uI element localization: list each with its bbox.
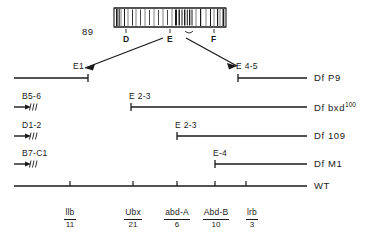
row-df-m1 — [14, 160, 307, 168]
chromosome-idiogram — [114, 8, 226, 33]
gene-llb-name: llb — [64, 208, 75, 220]
left-label-d1-2: D1-2 — [22, 121, 42, 130]
row-wt — [14, 181, 307, 186]
gene-abd-b-name: Abd-B — [203, 208, 230, 220]
deficiency-map-figure: 89 D E F E1 E 4-5 B5-6 E 2-3 D1-2 E 2-3 … — [0, 0, 369, 235]
gene-llb-number: 11 — [48, 220, 92, 229]
chromosome-outline — [114, 8, 226, 27]
gene-lrb: lrb 3 — [231, 201, 273, 229]
row2-left-hatches — [30, 104, 38, 111]
band-brace — [185, 31, 193, 33]
gene-llb-name-wrap: llb — [48, 201, 92, 220]
band-label-e: E — [167, 35, 173, 44]
segment-label-e2-3-row2: E 2-3 — [129, 92, 151, 101]
band-label-f: F — [211, 35, 217, 44]
gene-ubx-name-wrap: Ubx — [111, 201, 155, 220]
row-df-p9 — [14, 74, 307, 82]
gene-abd-a-name: abd-A — [164, 208, 190, 220]
row3-left-hatches — [30, 133, 38, 140]
segment-label-e2-3-row3: E 2-3 — [175, 121, 197, 130]
gene-ubx-name: Ubx — [124, 208, 142, 220]
row5-gene-ticks — [70, 181, 246, 186]
gene-ubx: Ubx 21 — [111, 201, 155, 229]
left-label-b5-6: B5-6 — [22, 92, 41, 101]
row-label-df-bxd100-text: Df bxd — [314, 102, 345, 113]
segment-label-e4-5: E 4-5 — [236, 62, 258, 71]
row-label-df-109: Df 109 — [314, 131, 346, 141]
left-label-b7-c1: B7-C1 — [22, 149, 48, 158]
row4-left-hatches — [30, 161, 38, 168]
row-df-bxd100 — [14, 103, 307, 111]
band-label-d: D — [123, 35, 130, 44]
segment-label-e1: E1 — [73, 62, 84, 71]
chromosome-region-number: 89 — [82, 27, 94, 37]
row-label-df-m1: Df M1 — [314, 159, 342, 169]
segment-label-e-4: E-4 — [213, 149, 227, 158]
band-pointer-ticks — [126, 29, 214, 33]
gene-lrb-number: 3 — [231, 220, 273, 229]
gene-lrb-name: lrb — [246, 208, 258, 220]
row-label-df-p9: Df P9 — [314, 73, 341, 83]
gene-ubx-number: 21 — [111, 220, 155, 229]
row-label-df-bxd100: Df bxd100 — [314, 102, 356, 113]
row-label-df-bxd100-superscript: 100 — [345, 101, 356, 108]
gene-lrb-name-wrap: lrb — [231, 201, 273, 220]
gene-llb: llb 11 — [48, 201, 92, 229]
figure-canvas — [0, 0, 369, 235]
row-df-109 — [14, 132, 307, 140]
row-label-wt: WT — [314, 181, 330, 191]
